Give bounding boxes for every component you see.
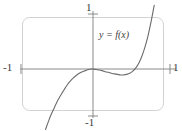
axis-label-top: 1 — [86, 2, 92, 13]
axis-label-right: 1 — [173, 62, 179, 73]
axis-label-bottom: -1 — [85, 117, 94, 128]
function-graph-figure: 1 -1 -1 1 y = f(x) — [0, 0, 182, 131]
axis-label-left: -1 — [3, 62, 12, 73]
plot-canvas — [0, 0, 182, 131]
curve-annotation-label: y = f(x) — [99, 30, 129, 40]
